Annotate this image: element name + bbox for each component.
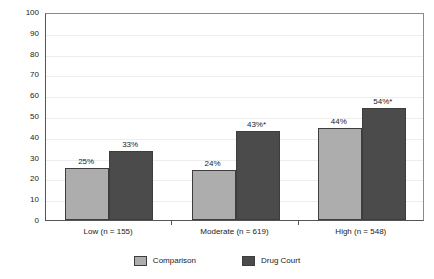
bar-value-label: 54%* [361,98,405,106]
bar-value-label: 44% [317,118,361,126]
bar-comparison [318,128,362,220]
y-axis-tick-label: 30 [9,155,39,163]
bar-value-label: 24% [191,160,235,168]
legend-label: Comparison [153,257,196,265]
y-axis-tick-label: 40 [9,134,39,142]
bar-drug-court [109,151,153,220]
legend-label: Drug Court [261,257,300,265]
x-axis-tick [298,221,299,225]
bar-value-label: 43%* [235,121,279,129]
gridline [46,35,423,36]
y-axis-tick-label: 20 [9,175,39,183]
y-axis-tick-label: 10 [9,196,39,204]
gridline [46,76,423,77]
y-axis-tick-label: 90 [9,30,39,38]
x-axis-category-label: High (n = 548) [298,228,424,236]
x-axis-tick [171,221,172,225]
x-axis-category-label: Moderate (n = 619) [171,228,297,236]
y-axis-tick-label: 60 [9,92,39,100]
legend-item-drug-court: Drug Court [242,256,300,266]
y-axis-tick-label: 50 [9,113,39,121]
y-axis-tick-label: 0 [9,217,39,225]
bar-value-label: 33% [108,141,152,149]
legend-swatch-icon [134,256,147,266]
recidivism-bar-chart: Recidivism (Percentage) 1009080706050403… [0,0,434,279]
bar-comparison [192,170,236,220]
bar-value-label: 25% [64,158,108,166]
legend-swatch-icon [242,256,255,266]
bar-drug-court [236,131,280,220]
bar-drug-court [362,108,406,220]
y-axis-tick-label: 80 [9,51,39,59]
chart-legend: ComparisonDrug Court [0,256,434,266]
y-axis-tick-label: 100 [9,9,39,17]
gridline [46,56,423,57]
y-axis-tick-label: 70 [9,71,39,79]
plot-area [45,13,424,221]
x-axis-category-label: Low (n = 155) [45,228,171,236]
legend-item-comparison: Comparison [134,256,196,266]
bar-comparison [65,168,109,220]
